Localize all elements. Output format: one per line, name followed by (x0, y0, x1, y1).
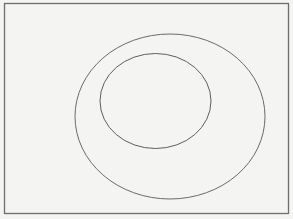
frame-border (5, 4, 289, 214)
diagram-canvas (0, 0, 293, 219)
